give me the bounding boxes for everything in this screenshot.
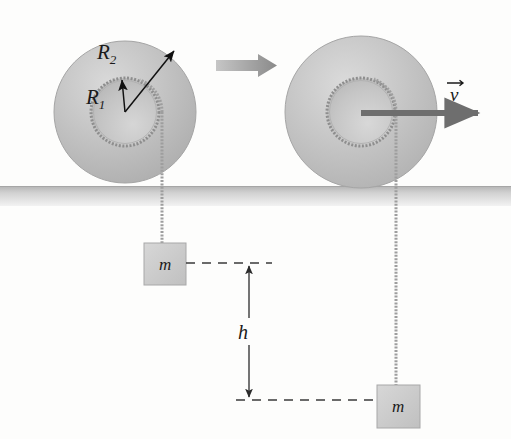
- figure-canvas: R2 R1 v: [0, 0, 511, 439]
- mass-block-left-group: m: [144, 243, 186, 285]
- mass-block-right-label: m: [392, 397, 404, 416]
- height-label: h: [238, 321, 248, 343]
- physics-figure-spool-and-mass: R2 R1 v: [0, 0, 511, 439]
- motion-direction-arrow: [216, 54, 277, 77]
- mass-block-right-group: m: [377, 385, 420, 428]
- mass-block-left-label: m: [159, 255, 171, 274]
- velocity-label: v: [450, 84, 459, 105]
- height-dimension-group: h: [186, 263, 378, 400]
- motion-arrow-shape: [216, 54, 277, 77]
- ground-group: [0, 186, 511, 206]
- ground-surface: [0, 186, 511, 206]
